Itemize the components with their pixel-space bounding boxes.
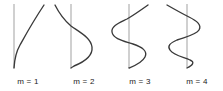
mode-curve-3: [112, 5, 148, 68]
mode-shapes-figure: m = 1 m = 2 m = 3 m = 4: [0, 0, 223, 91]
mode-panel-3: m = 3: [112, 4, 151, 86]
mode-shapes-canvas: m = 1 m = 2 m = 3 m = 4: [0, 0, 223, 91]
mode-label-4: m = 4: [186, 77, 208, 86]
mode-label-3: m = 3: [129, 77, 151, 86]
mode-label-2: m = 2: [73, 77, 95, 86]
mode-panel-4: m = 4: [167, 4, 208, 86]
mode-panel-2: m = 2: [55, 4, 95, 86]
mode-panel-1: m = 1: [14, 4, 44, 86]
mode-curve-4: [167, 5, 200, 68]
mode-label-1: m = 1: [17, 77, 39, 86]
mode-curve-1: [14, 5, 44, 68]
mode-curve-2: [55, 5, 92, 68]
